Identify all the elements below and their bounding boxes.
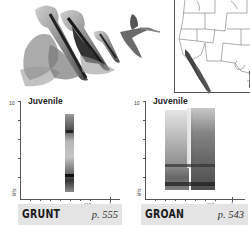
y-max-label: 10 xyxy=(134,100,140,106)
y-tick xyxy=(143,101,146,102)
range-map xyxy=(174,0,250,93)
y-tick xyxy=(18,139,20,140)
y-tick xyxy=(143,177,145,178)
x-tick xyxy=(195,199,196,201)
x-tick xyxy=(80,199,81,201)
y-unit-label: kHz xyxy=(137,188,142,196)
y-unit-label: kHz xyxy=(12,188,17,196)
y-max-label: 10 xyxy=(9,100,15,106)
y-tick xyxy=(143,158,146,159)
call-label-bar: GRUNT p. 555 xyxy=(18,204,122,225)
y-axis xyxy=(20,101,21,200)
x-tick xyxy=(40,199,41,201)
call-name: GRUNT xyxy=(22,207,60,221)
pelican-illustration xyxy=(20,0,160,90)
x-tick xyxy=(60,199,61,201)
spectrogram-trace xyxy=(55,108,85,198)
y-tick xyxy=(18,120,20,121)
x-tick xyxy=(70,199,71,201)
spectrogram-trace xyxy=(165,106,217,194)
x-tick xyxy=(50,199,51,201)
pelican-flock-icon xyxy=(20,0,160,90)
x-tick xyxy=(205,199,206,201)
page-reference[interactable]: p. 555 xyxy=(92,209,118,220)
y-axis xyxy=(145,101,146,200)
x-tick xyxy=(165,199,166,201)
range-map-icon xyxy=(175,0,250,94)
y-tick xyxy=(18,158,21,159)
x-tick xyxy=(175,199,176,201)
x-tick xyxy=(155,199,156,201)
x-tick xyxy=(90,199,91,201)
call-name: GROAN xyxy=(145,207,184,221)
spectrogram-groan: 10 Juvenile kHz sec 1 xyxy=(125,98,235,225)
call-label-bar: GROAN p. 543 xyxy=(141,204,248,225)
y-tick xyxy=(18,101,21,102)
spectrogram-grunt: 10 Juvenile kHz sec 1 GRUNT xyxy=(0,98,110,225)
page-reference[interactable]: p. 543 xyxy=(218,209,244,220)
y-tick xyxy=(143,139,145,140)
age-label: Juvenile xyxy=(153,96,188,106)
x-tick xyxy=(185,199,186,201)
y-tick xyxy=(18,177,20,178)
x-tick xyxy=(30,199,31,201)
age-label: Juvenile xyxy=(28,96,63,106)
y-tick xyxy=(143,120,145,121)
x-tick xyxy=(215,199,216,201)
